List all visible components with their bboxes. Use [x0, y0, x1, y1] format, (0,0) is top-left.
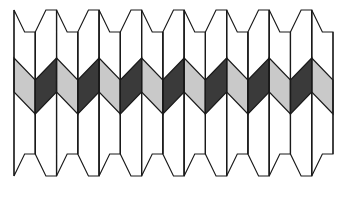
- figure-root: [0, 0, 347, 198]
- chevron-pattern-figure: [0, 0, 347, 198]
